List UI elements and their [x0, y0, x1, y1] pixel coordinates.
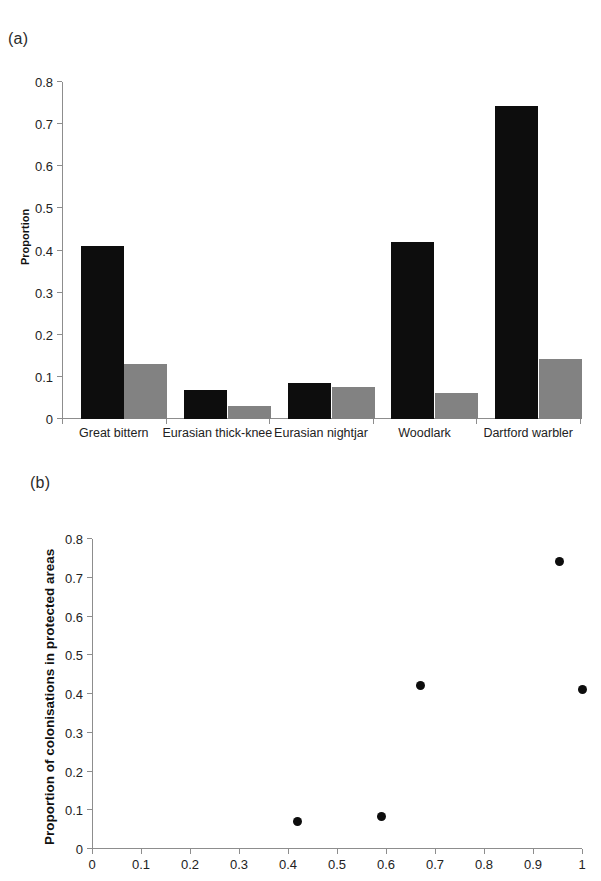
panel-b-data-point [416, 681, 425, 690]
panel-a-y-tick-label: 0.2 [35, 327, 53, 342]
panel-b-data-point [293, 817, 302, 826]
panel-a-category-label: Woodlark [369, 426, 481, 440]
panel-a-category-label: Great bittern [58, 426, 170, 440]
panel-b-x-tick [582, 849, 583, 854]
panel-b-y-tick [87, 616, 92, 617]
panel-b-y-tick [87, 538, 92, 539]
panel-b-y-tick-label: 0.7 [65, 570, 83, 585]
panel-b-y-tick-label: 0.6 [65, 609, 83, 624]
panel-a-category-separator [373, 419, 374, 424]
panel-b-scatter-chart: 00.10.20.30.40.50.60.70.8 00.10.20.30.40… [0, 500, 601, 881]
panel-b-x-tick-label: 0.4 [279, 857, 297, 872]
panel-a-bar-black [288, 383, 331, 419]
panel-b-y-axis-line [92, 539, 93, 849]
panel-b-y-tick-label: 0.8 [65, 532, 83, 547]
panel-b-label: (b) [30, 474, 50, 492]
panel-a-category-label: Eurasian thick-knee [161, 426, 273, 440]
panel-b-data-point [578, 685, 587, 694]
panel-a-bar-black [495, 106, 538, 419]
panel-b-y-tick [87, 732, 92, 733]
panel-a-bar-grey [435, 393, 478, 419]
panel-b-y-tick-label: 0 [76, 842, 83, 857]
panel-b-data-point [555, 557, 564, 566]
panel-a-y-tick [57, 165, 62, 166]
panel-b-x-tick-label: 0.2 [181, 857, 199, 872]
panel-a-bar-grey [332, 387, 375, 419]
panel-b-y-tick-label: 0.2 [65, 764, 83, 779]
panel-a-bar-grey [228, 406, 271, 419]
panel-a-y-axis-line [62, 82, 63, 419]
panel-b-y-tick [87, 693, 92, 694]
panel-a-category-label: Dartford warbler [472, 426, 584, 440]
panel-b-x-tick-label: 0.6 [377, 857, 395, 872]
panel-b-y-tick [87, 771, 92, 772]
panel-a-y-tick [57, 292, 62, 293]
panel-a-bar-grey [124, 364, 167, 419]
panel-b-x-tick [288, 849, 289, 854]
panel-b-x-tick-label: 0.1 [132, 857, 150, 872]
panel-b-y-tick [87, 809, 92, 810]
panel-b-x-tick-label: 0.8 [475, 857, 493, 872]
panel-a-y-tick [57, 123, 62, 124]
panel-a-category-separator [269, 419, 270, 424]
panel-a-category-separator [476, 419, 477, 424]
panel-a-y-tick-label: 0.4 [35, 243, 53, 258]
panel-a-category-label: Eurasian nightjar [265, 426, 377, 440]
panel-b-y-tick [87, 654, 92, 655]
panel-a-y-tick [57, 250, 62, 251]
panel-a-y-tick-label: 0.3 [35, 285, 53, 300]
panel-a-bar-black [391, 242, 434, 419]
panel-b-x-tick [386, 849, 387, 854]
panel-b-x-tick [435, 849, 436, 854]
panel-b-y-tick-label: 0.4 [65, 687, 83, 702]
panel-a-bar-grey [539, 359, 582, 419]
panel-a-y-tick [57, 334, 62, 335]
panel-a-y-tick-label: 0.6 [35, 159, 53, 174]
panel-b-x-tick-label: 0.9 [524, 857, 542, 872]
panel-a-bar-black [184, 390, 227, 419]
panel-a-category-separator [580, 419, 581, 424]
panel-a-label: (a) [8, 30, 28, 48]
panel-a-y-tick-label: 0.7 [35, 117, 53, 132]
panel-a-y-tick-label: 0.5 [35, 201, 53, 216]
panel-a-y-tick-label: 0.1 [35, 369, 53, 384]
panel-b-y-tick-label: 0.1 [65, 803, 83, 818]
panel-a-category-separator [166, 419, 167, 424]
panel-b-x-tick-label: 0 [88, 857, 95, 872]
panel-a-bar-black [81, 246, 124, 419]
panel-b-x-tick [190, 849, 191, 854]
scan-artifact-strip [0, 0, 601, 10]
panel-a-y-tick-label: 0.8 [35, 75, 53, 90]
panel-b-y-tick-label: 0.5 [65, 648, 83, 663]
figure-root: (a) Proportion 00.10.20.30.40.50.60.70.8… [0, 0, 601, 881]
panel-b-x-tick [484, 849, 485, 854]
panel-a-bar-chart: 00.10.20.30.40.50.60.70.8 Great bitternE… [0, 60, 601, 460]
panel-b-x-tick [533, 849, 534, 854]
panel-a-y-tick [57, 81, 62, 82]
panel-b-x-tick-label: 0.7 [426, 857, 444, 872]
panel-a-y-tick [57, 376, 62, 377]
panel-b-x-tick-label: 1 [578, 857, 585, 872]
panel-b-x-tick [337, 849, 338, 854]
panel-a-y-tick [57, 207, 62, 208]
panel-b-x-tick-label: 0.3 [230, 857, 248, 872]
panel-b-x-tick [239, 849, 240, 854]
panel-b-x-tick [92, 849, 93, 854]
panel-a-plot-area: 00.10.20.30.40.50.60.70.8 Great bitternE… [62, 82, 580, 419]
panel-b-data-point [377, 812, 386, 821]
panel-b-x-tick [141, 849, 142, 854]
panel-b-plot-area: 00.10.20.30.40.50.60.70.8 00.10.20.30.40… [92, 539, 582, 849]
panel-b-x-tick-label: 0.5 [328, 857, 346, 872]
panel-a-category-separator [62, 419, 63, 424]
panel-b-y-tick [87, 577, 92, 578]
panel-b-y-tick-label: 0.3 [65, 725, 83, 740]
panel-a-y-tick-label: 0 [46, 412, 53, 427]
